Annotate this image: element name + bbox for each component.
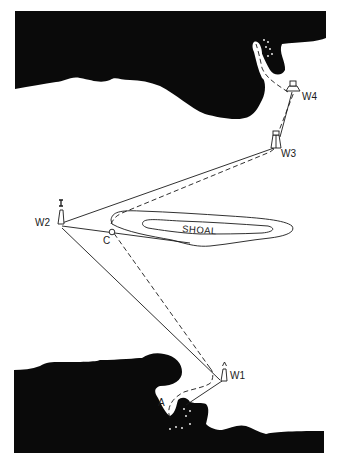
track-w3-to-w4: [277, 92, 294, 136]
label-w4: W4: [302, 91, 317, 102]
north-coast-land: [15, 11, 326, 119]
track-c-to-w3: [111, 146, 278, 224]
lighthouse-w1-icon: [221, 362, 227, 381]
line-w2-w3: [62, 148, 274, 223]
track-w1-to-c: [113, 232, 210, 368]
nautical-chart: W1 W2 W3 W4 C A SHOAL: [0, 0, 344, 465]
label-shoal: SHOAL: [182, 223, 217, 236]
south-coast-land: [14, 353, 324, 453]
line-w1-a: [186, 381, 222, 405]
line-w3-w4: [280, 92, 292, 137]
label-w3: W3: [281, 148, 296, 159]
line-w2-c: [62, 226, 190, 243]
bearing-lines: [62, 92, 292, 405]
chart-canvas: W1 W2 W3 W4 C A SHOAL: [0, 0, 344, 465]
label-c: C: [103, 235, 110, 246]
clearing-point-c: [109, 229, 115, 235]
label-w2: W2: [35, 217, 50, 228]
label-a: A: [158, 397, 165, 408]
beacon-w2-icon: [58, 200, 64, 224]
label-w1: W1: [230, 370, 245, 381]
building-w4-icon: [286, 81, 300, 91]
line-w2-w1: [62, 228, 220, 380]
tower-w3-icon: [271, 131, 281, 148]
